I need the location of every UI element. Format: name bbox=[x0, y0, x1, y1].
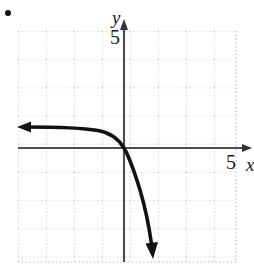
x-axis-label: x bbox=[246, 155, 254, 174]
coordinate-plane bbox=[0, 0, 254, 264]
grid-lines bbox=[18, 31, 236, 262]
graph-figure: y x 5 5 bbox=[0, 0, 254, 264]
y-axis-tick-label-5: 5 bbox=[110, 27, 120, 47]
x-axis-tick-label-5: 5 bbox=[226, 152, 236, 172]
y-axis-label: y bbox=[112, 8, 120, 27]
